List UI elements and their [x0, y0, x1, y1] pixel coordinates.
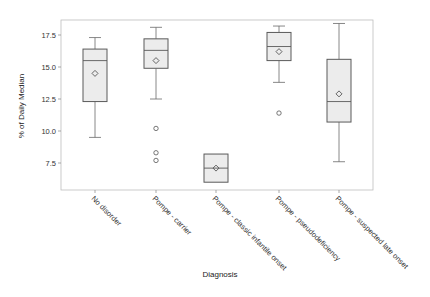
y-axis: 7.510.012.515.017.5 — [41, 31, 61, 168]
y-tick-label: 17.5 — [41, 31, 56, 40]
x-category-label: Pompe - carrier — [151, 194, 194, 237]
y-tick-label: 15.0 — [41, 63, 56, 72]
box-plot-chart: 7.510.012.515.017.5 No disorderPompe - c… — [0, 0, 430, 297]
y-tick-label: 10.0 — [41, 127, 56, 136]
x-axis: No disorderPompe - carrierPompe - classi… — [90, 190, 411, 273]
x-category-label: Pompe - pseudodeficiency — [274, 194, 343, 263]
x-category-label: No disorder — [90, 194, 124, 228]
iqr-box — [83, 49, 107, 101]
box-pompe-classic-infantile-onset — [204, 154, 228, 182]
y-tick-label: 12.5 — [41, 95, 56, 104]
x-axis-title: Diagnosis — [202, 270, 237, 279]
y-tick-label: 7.5 — [46, 159, 56, 168]
x-category-label: Pompe - classic infantile onset — [211, 194, 290, 273]
x-category-label: Pompe - suspected late onset — [334, 194, 411, 271]
y-axis-title: % of Daily Median — [17, 74, 26, 138]
